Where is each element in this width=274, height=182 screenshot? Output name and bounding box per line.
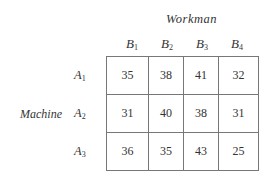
row-header-a3: A3 <box>74 144 86 159</box>
data-table: 35 38 41 32 31 40 38 31 36 35 43 25 <box>106 56 259 171</box>
column-header-b4: B4 <box>222 36 252 52</box>
table-row: 35 38 41 32 <box>107 57 259 95</box>
table-cell: 31 <box>219 95 259 133</box>
table-cell: 31 <box>107 95 149 133</box>
table-row: 31 40 38 31 <box>107 95 259 133</box>
table-cell: 40 <box>149 95 184 133</box>
table-cell: 32 <box>219 57 259 95</box>
table-cell: 25 <box>219 133 259 171</box>
table-cell: 38 <box>149 57 184 95</box>
column-header-b1: B1 <box>117 36 147 52</box>
table-cell: 35 <box>149 133 184 171</box>
table-row: 36 35 43 25 <box>107 133 259 171</box>
column-group-label: Workman <box>166 12 256 27</box>
row-header-a1: A1 <box>74 68 86 83</box>
column-header-b3: B3 <box>187 36 217 52</box>
table-cell: 38 <box>184 95 219 133</box>
row-header-a2: A2 <box>74 106 86 121</box>
column-header-b2: B2 <box>152 36 182 52</box>
table-cell: 41 <box>184 57 219 95</box>
table-cell: 35 <box>107 57 149 95</box>
row-group-label: Machine <box>20 107 62 122</box>
table-cell: 36 <box>107 133 149 171</box>
table-cell: 43 <box>184 133 219 171</box>
